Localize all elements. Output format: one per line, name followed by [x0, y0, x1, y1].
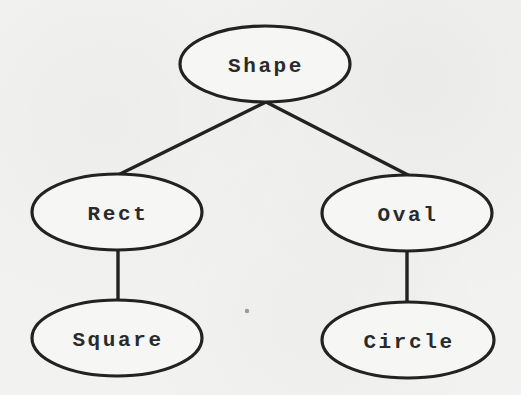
node-square-label: Square	[72, 329, 163, 352]
node-oval: Oval	[322, 175, 492, 251]
class-hierarchy-diagram: Shape Rect Oval Square Circle	[0, 0, 521, 395]
node-rect-label: Rect	[88, 203, 149, 226]
node-rect: Rect	[32, 174, 202, 250]
node-square: Square	[32, 300, 202, 376]
edge-shape-oval	[266, 102, 410, 176]
scan-speck	[245, 309, 249, 313]
node-oval-label: Oval	[378, 204, 439, 227]
node-shape: Shape	[180, 26, 350, 102]
node-circle: Circle	[322, 302, 494, 378]
node-shape-label: Shape	[228, 55, 304, 78]
diagram-canvas: Shape Rect Oval Square Circle	[0, 0, 521, 395]
node-circle-label: Circle	[363, 331, 454, 354]
edge-shape-rect	[118, 102, 266, 175]
